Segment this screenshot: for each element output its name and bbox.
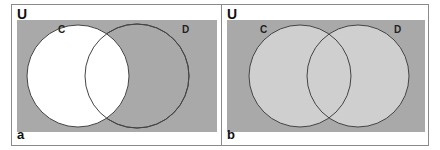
venn-diagram-a bbox=[12, 5, 221, 145]
set-c-circle bbox=[27, 25, 129, 127]
panel-caption: b bbox=[227, 127, 235, 142]
venn-panel-b: U C D b bbox=[222, 5, 431, 145]
set-d-label: D bbox=[394, 24, 401, 35]
set-d-label: D bbox=[182, 24, 189, 35]
venn-panel-a: U C D a bbox=[12, 5, 221, 145]
universe-label: U bbox=[227, 6, 237, 22]
universe-label: U bbox=[17, 6, 27, 22]
set-c-label: C bbox=[260, 24, 267, 35]
panel-caption: a bbox=[17, 127, 24, 142]
set-c-label: C bbox=[58, 24, 65, 35]
set-d-fill bbox=[307, 25, 409, 127]
